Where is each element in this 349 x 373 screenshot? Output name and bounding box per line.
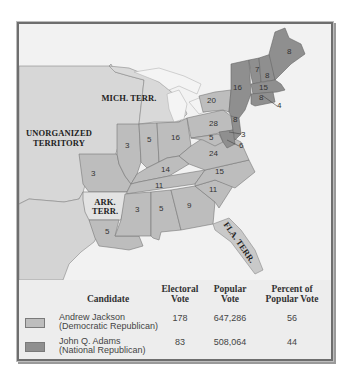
- votes-rhode-island: 4: [277, 101, 282, 110]
- election-map-frame: UNORGANIZED TERRITORY MICH. TERR. ARK. T…: [17, 22, 333, 361]
- votes-south-carolina: 11: [209, 185, 218, 194]
- percent-value: 44: [277, 337, 307, 347]
- candidate-jackson: Andrew Jackson (Democratic Republican): [59, 313, 158, 331]
- votes-virginia: 24: [209, 149, 218, 158]
- votes-ohio: 16: [171, 133, 180, 142]
- label-mich-terr: MICH. TERR.: [101, 93, 156, 103]
- label-unorganized-territory-1: UNORGANIZED: [26, 128, 92, 138]
- header-popular-vote: Popular Vote: [205, 284, 255, 304]
- header-popular-line2: Vote: [205, 294, 255, 304]
- header-percent-line1: Percent of: [259, 284, 325, 294]
- adams-color-swatch: [25, 342, 45, 352]
- header-electoral-vote: Electoral Vote: [155, 284, 205, 304]
- votes-vermont: 7: [255, 65, 260, 74]
- candidate-party: (Democratic Republican): [59, 322, 158, 331]
- candidate-party: (National Republican): [59, 346, 146, 355]
- electoral-vote-value: 178: [167, 313, 193, 323]
- state-indiana: [139, 123, 159, 168]
- votes-delaware: 3: [241, 130, 246, 139]
- header-popular-line1: Popular: [205, 284, 255, 294]
- candidate-adams: John Q. Adams (National Republican): [59, 337, 146, 355]
- votes-maryland-adams: 6: [239, 141, 244, 150]
- jackson-color-swatch: [25, 318, 45, 328]
- election-results-legend: Candidate Electoral Vote Popular Vote Pe…: [19, 280, 331, 359]
- percent-value: 56: [277, 313, 307, 323]
- votes-new-hampshire: 8: [265, 71, 270, 80]
- votes-massachusetts: 15: [259, 83, 268, 92]
- votes-tennessee: 11: [155, 181, 164, 190]
- votes-connecticut: 8: [259, 93, 264, 102]
- header-percent-line2: Popular Vote: [259, 294, 325, 304]
- label-ark-terr-2: TERR.: [92, 206, 118, 216]
- votes-illinois: 3: [125, 141, 130, 150]
- votes-missouri: 3: [91, 169, 96, 178]
- votes-north-carolina: 15: [215, 167, 224, 176]
- votes-maryland-jackson: 5: [209, 133, 214, 142]
- votes-georgia: 9: [187, 201, 192, 210]
- votes-new-jersey: 8: [233, 115, 238, 124]
- electoral-vote-value: 83: [167, 337, 193, 347]
- header-electoral-line1: Electoral: [155, 284, 205, 294]
- header-electoral-line2: Vote: [155, 294, 205, 304]
- votes-louisiana: 5: [105, 227, 110, 236]
- votes-new-york-jackson: 20: [207, 96, 216, 105]
- votes-new-york-adams: 16: [233, 83, 242, 92]
- header-candidate: Candidate: [73, 294, 143, 304]
- label-unorganized-territory-2: TERRITORY: [33, 138, 85, 148]
- votes-maine: 8: [287, 47, 292, 56]
- legend-row-jackson: Andrew Jackson (Democratic Republican) 1…: [19, 310, 331, 334]
- election-map: UNORGANIZED TERRITORY MICH. TERR. ARK. T…: [19, 24, 331, 280]
- header-percent-popular-vote: Percent of Popular Vote: [259, 284, 325, 304]
- votes-alabama: 5: [159, 204, 164, 213]
- votes-kentucky: 14: [161, 165, 170, 174]
- votes-indiana: 5: [147, 135, 152, 144]
- legend-row-adams: John Q. Adams (National Republican) 83 5…: [19, 334, 331, 358]
- popular-vote-value: 508,064: [205, 337, 255, 347]
- votes-pennsylvania: 28: [209, 119, 218, 128]
- votes-mississippi: 3: [135, 205, 140, 214]
- popular-vote-value: 647,286: [205, 313, 255, 323]
